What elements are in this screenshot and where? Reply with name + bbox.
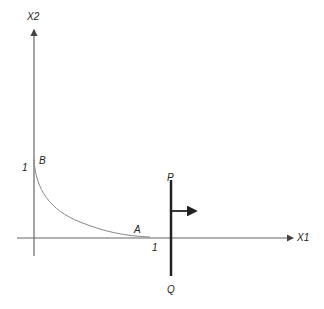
y-tick-label: 1 bbox=[22, 162, 28, 173]
diagram-canvas: X2 X1 1 1 B A P Q bbox=[0, 0, 324, 309]
indifference-curve bbox=[34, 160, 150, 237]
x-tick-label: 1 bbox=[152, 242, 158, 253]
point-label-b: B bbox=[39, 155, 46, 166]
point-label-a: A bbox=[133, 224, 141, 235]
point-label-p: P bbox=[167, 172, 174, 183]
x-axis-label: X1 bbox=[296, 232, 309, 243]
point-label-q: Q bbox=[167, 284, 175, 295]
y-axis-label: X2 bbox=[26, 11, 40, 22]
